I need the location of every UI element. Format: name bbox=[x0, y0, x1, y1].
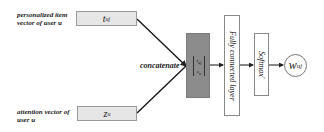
concatenate-label: concatenate bbox=[140, 61, 180, 70]
fully-connected-layer-box: Fully connected layer bbox=[224, 15, 240, 116]
bottom-input-label: attention vector of user u bbox=[17, 108, 70, 124]
output-weight-node: wuj bbox=[284, 54, 307, 77]
concatenated-vector-box: tuj zu bbox=[186, 33, 210, 98]
concatenated-vector-bracket: tuj zu bbox=[193, 56, 205, 76]
attention-vector-box: zu bbox=[77, 106, 137, 121]
top-input-label: personalized item vector of user u bbox=[17, 11, 67, 27]
personalized-item-vector-box: tuj bbox=[76, 11, 137, 26]
softmax-box: Softmax' bbox=[254, 33, 269, 96]
